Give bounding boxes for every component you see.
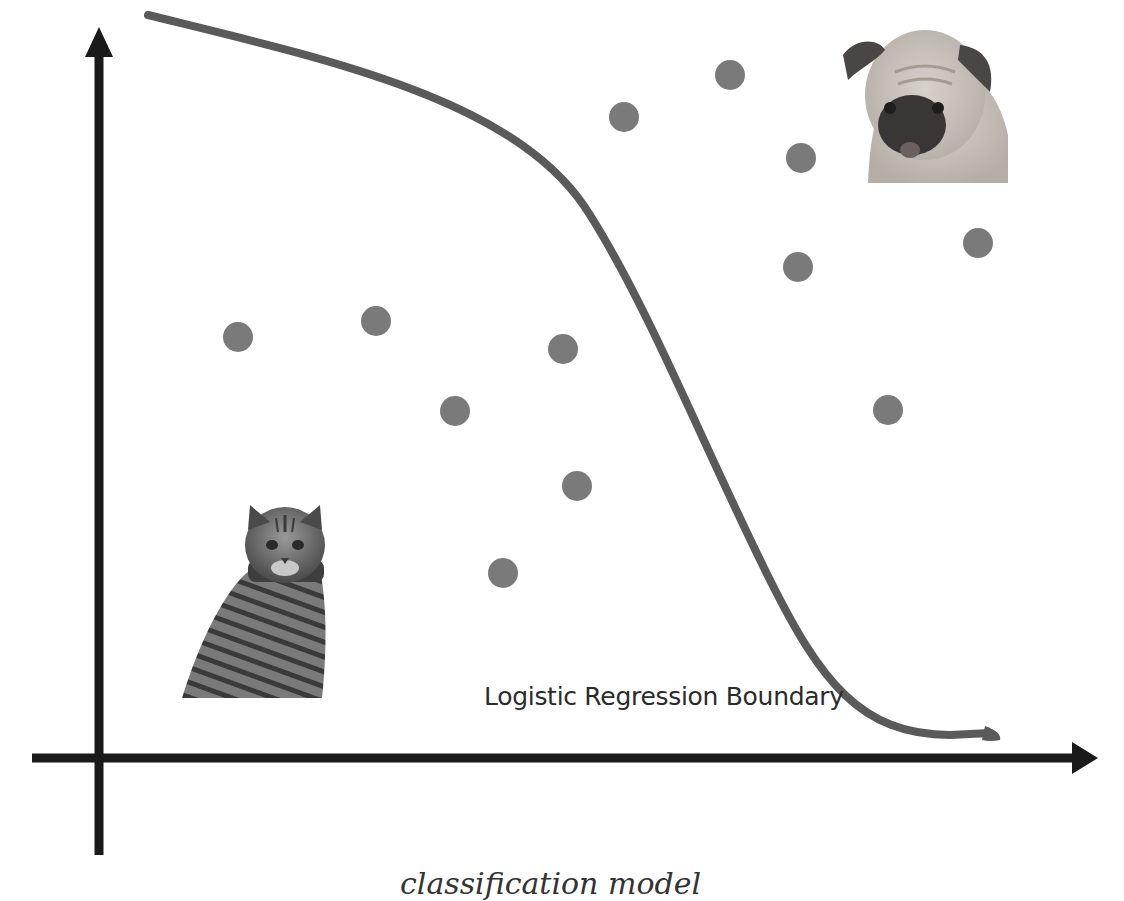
data-point — [786, 143, 816, 173]
data-point — [361, 306, 391, 336]
data-point — [783, 252, 813, 282]
data-point — [488, 558, 518, 588]
cat-icon — [182, 505, 326, 698]
data-point — [873, 395, 903, 425]
data-point — [548, 334, 578, 364]
y-axis-arrowhead-icon — [85, 27, 113, 57]
diagram-caption: classification model — [400, 866, 701, 901]
data-point — [440, 396, 470, 426]
data-point — [963, 228, 993, 258]
data-point — [223, 322, 253, 352]
x-axis-arrowhead-icon — [1072, 742, 1098, 774]
y-axis — [85, 27, 113, 855]
x-axis — [32, 742, 1098, 774]
data-point — [609, 102, 639, 132]
boundary-label: Logistic Regression Boundary — [484, 682, 844, 711]
data-point — [562, 471, 592, 501]
data-point — [715, 60, 745, 90]
pug-dog-icon — [843, 30, 1008, 183]
